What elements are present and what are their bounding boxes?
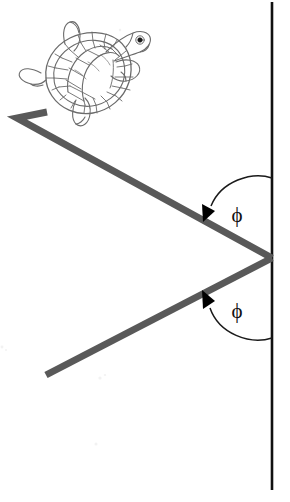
physics-reflection-figure: ϕ ϕ [0,0,290,502]
turtle-eye [138,38,143,43]
incident-angle-label: ϕ [231,203,242,227]
reflected-angle-label: ϕ [231,299,242,323]
diagram-canvas: ϕ ϕ [0,0,290,502]
figure-background [0,0,290,502]
